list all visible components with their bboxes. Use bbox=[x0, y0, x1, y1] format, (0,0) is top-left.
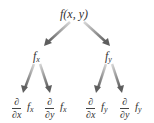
node-fx: fx bbox=[33, 50, 40, 64]
partial-numerator: ∂ bbox=[46, 97, 53, 107]
leaf-function: fx bbox=[60, 101, 67, 114]
node-fy: fy bbox=[105, 50, 112, 64]
leaf-function: fy bbox=[135, 101, 142, 114]
partial-numerator: ∂ bbox=[87, 97, 94, 107]
partial-numerator: ∂ bbox=[121, 97, 128, 107]
partial-denominator: ∂y bbox=[45, 110, 54, 120]
partial-operator: ∂ ∂y bbox=[45, 97, 54, 120]
partial-denominator: ∂y bbox=[120, 110, 129, 120]
leaf-function: fx bbox=[27, 101, 34, 114]
partial-numerator: ∂ bbox=[13, 97, 20, 107]
partial-operator: ∂ ∂x bbox=[12, 97, 21, 120]
arrow-fy-to-fyy bbox=[112, 64, 124, 93]
arrow-root-to-fy bbox=[84, 22, 110, 46]
partial-denominator: ∂x bbox=[86, 110, 95, 120]
arrow-fx-to-fxx bbox=[21, 64, 34, 93]
root-node-label: f(x, y) bbox=[60, 8, 88, 20]
node-fx-sub: x bbox=[36, 55, 40, 64]
node-fy-sub: y bbox=[108, 55, 112, 64]
partial-operator: ∂ ∂y bbox=[120, 97, 129, 120]
arrow-fy-to-fyx bbox=[94, 64, 106, 93]
partial-denominator: ∂x bbox=[12, 110, 21, 120]
leaf-function: fy bbox=[101, 101, 108, 114]
arrow-root-to-fx bbox=[44, 22, 70, 46]
partial-operator: ∂ ∂x bbox=[86, 97, 95, 120]
arrow-fx-to-fxy bbox=[40, 64, 52, 93]
